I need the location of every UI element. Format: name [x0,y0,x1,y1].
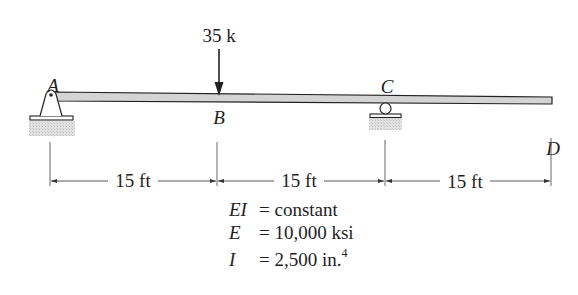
point-label-b: B [213,107,225,128]
span-label-cd: 15 ft [447,171,483,192]
span-label-bc: 15 ft [281,170,317,191]
property-symbol: E [229,221,259,244]
roller-support-c [369,103,402,130]
property-i: I= 2,500 in.4 [229,244,354,271]
beam [52,92,552,104]
property-symbol: I [229,248,259,271]
property-value: = 2,500 in. [259,249,342,270]
span-label-ab: 15 ft [115,170,151,191]
property-e: E= 10,000 ksi [229,221,354,244]
load-label: 35 k [202,25,236,46]
property-ei: EI= constant [229,198,354,221]
property-symbol: EI [229,198,259,221]
property-value: = constant [259,199,338,220]
load-arrow-b [215,49,224,96]
property-exponent: 4 [342,246,348,260]
property-value: = 10,000 ksi [259,222,354,243]
point-label-c: C [381,76,394,97]
point-label-a: A [45,75,59,96]
section-properties: EI= constant E= 10,000 ksi I= 2,500 in.4 [229,198,354,271]
point-label-d: D [545,138,560,159]
